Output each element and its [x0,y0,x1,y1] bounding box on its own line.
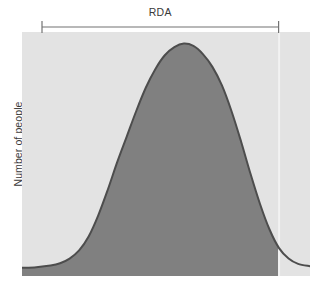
plot-svg [0,0,318,283]
rda-bracket [42,21,279,33]
distribution-figure: Number of people RDA [0,0,318,283]
